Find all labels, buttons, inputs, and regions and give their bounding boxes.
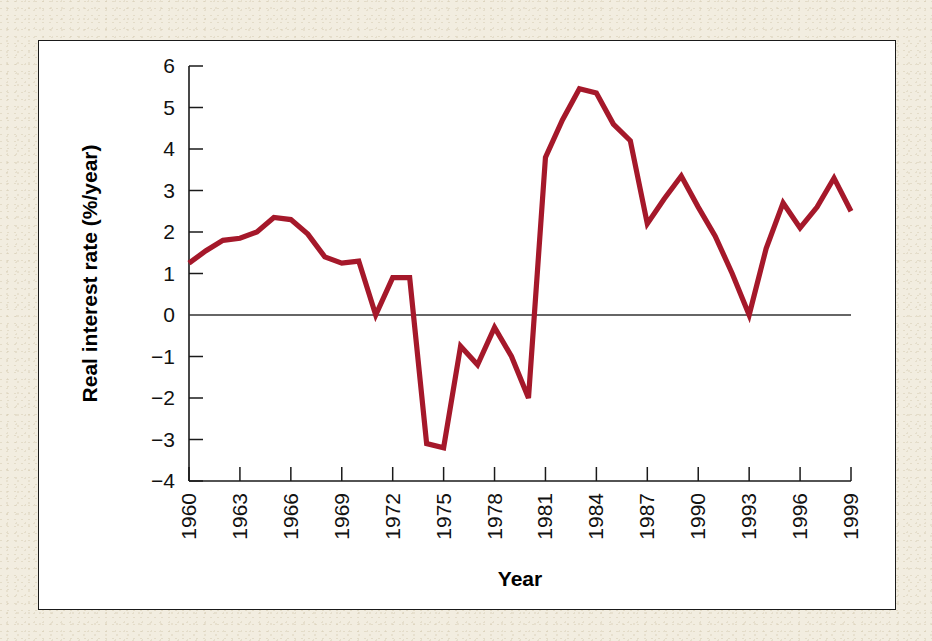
y-tick-label: 5 (163, 96, 175, 119)
y-tick-label: 6 (163, 54, 175, 77)
x-axis-tick-labels: 1960196319661969197219751978198119841987… (177, 493, 862, 540)
y-tick-label: −3 (151, 428, 175, 451)
x-tick-label: 1966 (279, 493, 302, 540)
y-tick-label: 3 (163, 179, 175, 202)
y-tick-label: 1 (163, 262, 175, 285)
data-series-line (189, 89, 851, 448)
chart-panel: 6543210−1−2−3−4 196019631966196919721975… (38, 40, 896, 610)
x-tick-label: 1993 (737, 493, 760, 540)
x-tick-label: 1963 (228, 493, 251, 540)
y-tick-label: −4 (151, 469, 175, 492)
y-axis-title: Real interest rate (%/year) (78, 145, 101, 403)
x-tick-label: 1984 (584, 493, 607, 540)
x-tick-label: 1990 (686, 493, 709, 540)
x-tick-label: 1981 (533, 493, 556, 540)
x-tick-label: 1972 (381, 493, 404, 540)
x-tick-label: 1978 (483, 493, 506, 540)
x-tick-label: 1969 (330, 493, 353, 540)
figure-page: 6543210−1−2−3−4 196019631966196919721975… (0, 0, 932, 641)
y-axis-tick-marks (189, 66, 203, 481)
y-tick-label: 2 (163, 220, 175, 243)
x-tick-label: 1975 (432, 493, 455, 540)
y-tick-label: −1 (151, 345, 175, 368)
x-axis-title: Year (498, 567, 542, 590)
x-tick-label: 1999 (839, 493, 862, 540)
x-tick-label: 1996 (788, 493, 811, 540)
x-tick-label: 1960 (177, 493, 200, 540)
y-tick-label: 0 (163, 303, 175, 326)
y-axis-tick-labels: 6543210−1−2−3−4 (151, 54, 175, 492)
x-axis-tick-marks (189, 467, 851, 481)
y-tick-label: −2 (151, 386, 175, 409)
real-interest-rate-line-chart: 6543210−1−2−3−4 196019631966196919721975… (39, 41, 894, 608)
y-tick-label: 4 (163, 137, 175, 160)
x-tick-label: 1987 (635, 493, 658, 540)
